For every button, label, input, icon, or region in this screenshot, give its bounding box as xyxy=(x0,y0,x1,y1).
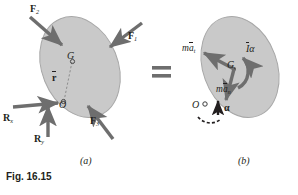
label-tangential-effective-force: mat xyxy=(182,44,195,55)
point-o-marker-b xyxy=(203,102,207,106)
body-part-a xyxy=(25,5,134,130)
angular-acceleration-arc xyxy=(198,117,221,123)
label-force-f1: F1 xyxy=(128,31,137,42)
label-force-f3: F3 xyxy=(90,116,99,127)
figure-caption: Fig. 16.15 xyxy=(6,172,52,182)
sublabel-part-a: (a) xyxy=(80,156,92,166)
label-normal-effective-force: man xyxy=(216,85,231,96)
label-position-vector: r xyxy=(52,73,56,83)
label-center-of-gravity-b: G xyxy=(227,60,234,70)
label-effective-couple: Iα xyxy=(246,44,255,54)
label-reaction-rx: Rx xyxy=(3,113,13,124)
label-angular-acceleration: α xyxy=(224,103,230,113)
figure-16-15 xyxy=(0,0,298,195)
label-point-o-b: O xyxy=(192,100,199,110)
rigid-body-shape-b xyxy=(187,5,292,128)
body-part-b xyxy=(187,5,292,128)
reaction-rx-arrow xyxy=(13,103,58,107)
sublabel-part-b: (b) xyxy=(238,156,250,166)
label-reaction-ry: Ry xyxy=(34,134,44,145)
label-force-f2: F2 xyxy=(30,4,39,15)
rigid-body-shape-a xyxy=(25,5,134,130)
label-center-of-gravity-a: G xyxy=(67,51,74,61)
equals-sign xyxy=(152,66,171,78)
label-point-o-a: O xyxy=(59,100,66,110)
